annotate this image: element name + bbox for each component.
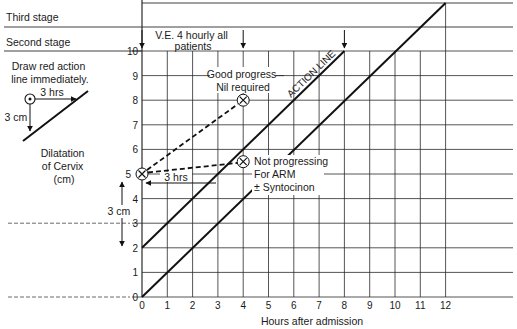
partogram-chart: Third stage Second stage 10 9 8 bbox=[0, 0, 517, 329]
three-cm-label: 3 cm bbox=[108, 205, 131, 217]
marker-good-progress bbox=[237, 94, 249, 106]
svg-text:9: 9 bbox=[367, 300, 373, 311]
svg-text:6: 6 bbox=[291, 300, 297, 311]
svg-text:12: 12 bbox=[440, 300, 452, 311]
svg-text:5: 5 bbox=[266, 300, 272, 311]
svg-text:1: 1 bbox=[132, 267, 138, 278]
grid-horizontal bbox=[142, 51, 513, 297]
svg-text:3: 3 bbox=[132, 218, 138, 229]
svg-text:3: 3 bbox=[215, 300, 221, 311]
svg-text:4: 4 bbox=[132, 194, 138, 205]
svg-text:11: 11 bbox=[415, 300, 426, 311]
third-stage-label: Third stage bbox=[6, 11, 59, 23]
svg-text:8: 8 bbox=[132, 95, 138, 106]
svg-text:7: 7 bbox=[316, 300, 322, 311]
action-line-label: ACTION LINE bbox=[285, 48, 338, 100]
svg-text:2: 2 bbox=[132, 243, 138, 254]
svg-text:5: 5 bbox=[125, 169, 131, 180]
second-stage-label: Second stage bbox=[6, 36, 70, 48]
svg-text:10: 10 bbox=[389, 300, 401, 311]
reference-dashed-lines bbox=[8, 223, 130, 297]
y-axis-label: Dilatation of Cervix (cm) bbox=[41, 147, 88, 185]
svg-text:10: 10 bbox=[127, 46, 139, 57]
svg-text:9: 9 bbox=[132, 71, 138, 82]
svg-text:8: 8 bbox=[342, 300, 348, 311]
legend-3hrs-label: 3 hrs bbox=[40, 86, 63, 98]
svg-text:0: 0 bbox=[132, 292, 138, 303]
good-progress-label: Good progress Nil required bbox=[207, 68, 279, 93]
three-cm-indicator: 3 cm bbox=[104, 182, 134, 246]
marker-not-progressing bbox=[237, 156, 249, 168]
draw-action-line-label: Draw red action line immediately. bbox=[11, 60, 88, 85]
svg-text:1: 1 bbox=[165, 300, 171, 311]
x-axis-ticks: 0 1 2 3 4 5 6 7 8 9 10 11 12 bbox=[139, 300, 451, 311]
svg-text:7: 7 bbox=[132, 120, 138, 131]
three-hrs-label: 3 hrs bbox=[164, 171, 187, 183]
stage-bands: Third stage Second stage bbox=[4, 3, 513, 51]
svg-text:6: 6 bbox=[132, 144, 138, 155]
svg-text:0: 0 bbox=[139, 300, 145, 311]
x-axis-label: Hours after admission bbox=[261, 315, 363, 327]
marker-start bbox=[136, 168, 148, 180]
svg-text:2: 2 bbox=[190, 300, 196, 311]
instruction-legend: Draw red action line immediately. 3 hrs … bbox=[5, 60, 89, 141]
legend-3cm-label: 3 cm bbox=[5, 111, 28, 123]
svg-text:4: 4 bbox=[240, 300, 246, 311]
